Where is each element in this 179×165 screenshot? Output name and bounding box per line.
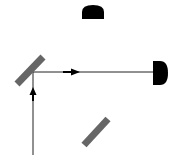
mirror-bottom bbox=[84, 119, 108, 145]
arrow-right-icon bbox=[63, 69, 80, 76]
detector-top-icon bbox=[82, 5, 104, 19]
arrow-up-icon bbox=[30, 87, 37, 101]
detector-right-icon bbox=[153, 61, 168, 85]
diagram-canvas bbox=[0, 0, 179, 165]
optics-diagram bbox=[0, 0, 179, 165]
beam-splitter bbox=[17, 57, 43, 84]
